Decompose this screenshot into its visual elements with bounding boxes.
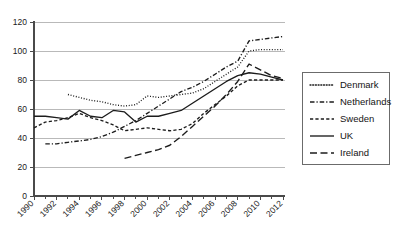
data-series-layer	[34, 37, 283, 159]
x-axis-tick-labels: 1990199219941996199820002002200420062008…	[15, 198, 285, 219]
legend-label: Netherlands	[340, 97, 391, 107]
legend-item-denmark[interactable]: Denmark	[303, 76, 389, 93]
legend-label: Denmark	[340, 80, 379, 90]
y-tick-label: 120	[13, 17, 27, 27]
legend-swatch-dotted-icon	[309, 80, 335, 90]
x-tick-label: 2000	[128, 198, 149, 219]
x-tick-label: 2008	[219, 198, 240, 219]
x-tick-label: 2012	[264, 198, 285, 219]
legend-swatch-dash-dot-icon	[309, 97, 335, 107]
x-tick-label: 1990	[15, 198, 36, 219]
series-line-ireland	[125, 64, 283, 158]
line-chart-plot: 020406080100120 199019921994199619982000…	[0, 0, 290, 245]
series-line-netherlands	[45, 37, 283, 144]
legend-item-netherlands[interactable]: Netherlands	[303, 93, 389, 110]
y-tick-label: 20	[18, 162, 28, 172]
axes	[30, 21, 285, 200]
x-tick-label: 2010	[241, 198, 262, 219]
legend-item-uk[interactable]: UK	[303, 127, 389, 144]
x-tick-label: 1996	[83, 198, 104, 219]
y-tick-label: 40	[18, 133, 28, 143]
legend-swatch-long-dash-icon	[309, 148, 335, 158]
series-line-denmark	[68, 50, 283, 107]
chart-figure: 020406080100120 199019921994199619982000…	[0, 0, 395, 245]
chart-legend: DenmarkNetherlandsSwedenUKIreland	[302, 72, 390, 165]
y-axis-tick-labels: 020406080100120	[13, 17, 27, 201]
x-tick-label: 2006	[196, 198, 217, 219]
legend-label: UK	[340, 131, 353, 141]
legend-label: Sweden	[340, 114, 374, 124]
y-tick-label: 100	[13, 46, 27, 56]
x-tick-label: 2004	[173, 198, 194, 219]
series-line-sweden	[34, 80, 283, 131]
legend-item-sweden[interactable]: Sweden	[303, 110, 389, 127]
y-tick-label: 60	[18, 104, 28, 114]
x-tick-label: 1994	[60, 198, 81, 219]
x-tick-label: 1992	[38, 198, 59, 219]
legend-swatch-dashed-icon	[309, 114, 335, 124]
y-tick-label: 80	[18, 75, 28, 85]
legend-swatch-solid-icon	[309, 131, 335, 141]
x-tick-label: 2002	[151, 198, 172, 219]
legend-item-ireland[interactable]: Ireland	[303, 144, 389, 161]
legend-label: Ireland	[340, 148, 369, 158]
x-tick-label: 1998	[106, 198, 127, 219]
